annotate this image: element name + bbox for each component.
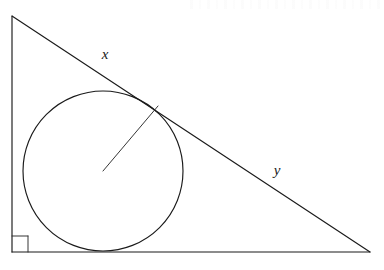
radius-line (103, 106, 158, 171)
diagram-page: { "figure": { "title": "right-triangle-w… (0, 0, 384, 270)
label-x: x (101, 46, 109, 62)
label-y: y (272, 162, 281, 178)
triangle-group (12, 16, 370, 252)
geometry-figure: x y (0, 0, 384, 270)
triangle-hypotenuse (12, 16, 370, 252)
right-angle-marker (12, 236, 28, 252)
